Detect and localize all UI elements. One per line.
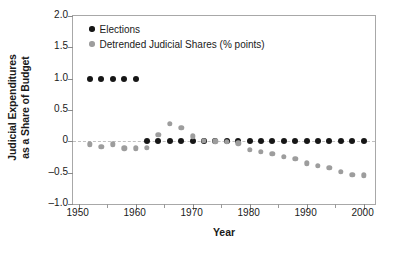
y-axis-tick [68, 204, 73, 205]
data-point-detrended-shares [361, 172, 366, 177]
data-point-detrended-shares [133, 146, 138, 151]
legend-label-elections: Elections [100, 24, 141, 35]
y-axis-title-line-2: as a Share of Budget [18, 56, 30, 158]
data-point-elections [167, 138, 173, 144]
data-point-detrended-shares [224, 139, 229, 144]
data-point-elections [190, 138, 196, 144]
y-axis-tick-label: –0.5 [34, 167, 68, 177]
y-axis-tick [68, 173, 73, 174]
data-point-detrended-shares [327, 165, 332, 170]
data-point-elections [281, 138, 287, 144]
legend-label-detrended-shares: Detrended Judicial Shares (% points) [100, 39, 265, 50]
data-point-detrended-shares [236, 141, 241, 146]
data-point-detrended-shares [315, 163, 320, 168]
data-point-elections [178, 138, 184, 144]
legend-item-detrended-shares: Detrended Judicial Shares (% points) [89, 37, 265, 51]
x-axis-tick-labels: 195019601970198019902000 [72, 208, 376, 222]
data-point-detrended-shares [338, 169, 343, 174]
chart-legend: Elections Detrended Judicial Shares (% p… [89, 22, 265, 52]
y-axis-title: Judicial Expenditures as a Share of Budg… [0, 0, 36, 215]
data-point-detrended-shares [179, 125, 184, 130]
y-axis-tick-label: 2.0 [34, 10, 68, 20]
data-point-detrended-shares [304, 161, 309, 166]
data-point-detrended-shares [87, 142, 92, 147]
y-axis-tick [68, 16, 73, 17]
y-axis-title-line-1: Judicial Expenditures [6, 54, 18, 160]
data-point-elections [258, 138, 264, 144]
data-point-detrended-shares [122, 146, 127, 151]
data-point-elections [98, 76, 104, 82]
data-point-elections [121, 76, 127, 82]
data-point-elections [304, 138, 310, 144]
x-axis-tick-label: 1990 [294, 208, 316, 218]
y-axis-tick [68, 141, 73, 142]
x-axis-tick-label: 1960 [124, 208, 146, 218]
x-axis-title: Year [72, 226, 376, 238]
data-point-elections [269, 138, 275, 144]
y-axis-tick-labels: 2.01.51.00.50–0.5–1.0 [32, 0, 68, 260]
x-axis-tick-label: 1980 [238, 208, 260, 218]
data-point-detrended-shares [258, 149, 263, 154]
data-point-detrended-shares [99, 144, 104, 149]
y-axis-tick-label: 1.0 [34, 73, 68, 83]
data-point-detrended-shares [281, 154, 286, 159]
data-point-detrended-shares [144, 145, 149, 150]
x-axis-tick-label: 1950 [67, 208, 89, 218]
x-axis-minor-tick [335, 204, 336, 208]
data-point-elections [338, 138, 344, 144]
y-axis-tick-label: 0.5 [34, 104, 68, 114]
data-point-elections [361, 138, 367, 144]
data-point-detrended-shares [156, 132, 161, 137]
data-point-detrended-shares [270, 151, 275, 156]
data-point-elections [110, 76, 116, 82]
data-point-detrended-shares [167, 121, 172, 126]
data-point-elections [144, 138, 150, 144]
plot-area: Elections Detrended Judicial Shares (% p… [72, 15, 376, 205]
data-point-elections [326, 138, 332, 144]
legend-item-elections: Elections [89, 22, 265, 36]
y-axis-tick-label: –1.0 [34, 198, 68, 208]
data-point-detrended-shares [293, 156, 298, 161]
y-axis-tick [68, 110, 73, 111]
x-axis-minor-tick [278, 204, 279, 208]
legend-marker-elections-icon [89, 26, 95, 32]
legend-marker-detrended-shares-icon [89, 41, 95, 47]
x-axis-tick-label: 2000 [351, 208, 373, 218]
data-point-elections [133, 76, 139, 82]
data-point-elections [247, 138, 253, 144]
y-axis-tick-label: 0 [34, 135, 68, 145]
y-axis-tick [68, 47, 73, 48]
data-point-detrended-shares [247, 147, 252, 152]
data-point-elections [315, 138, 321, 144]
data-point-elections [155, 138, 161, 144]
data-point-detrended-shares [110, 142, 115, 147]
x-axis-tick-label: 1970 [181, 208, 203, 218]
chart-figure: Judicial Expenditures as a Share of Budg… [0, 0, 398, 260]
x-axis-minor-tick [107, 204, 108, 208]
x-axis-minor-tick [164, 204, 165, 208]
data-point-elections [349, 138, 355, 144]
data-point-detrended-shares [350, 172, 355, 177]
y-axis-tick-label: 1.5 [34, 41, 68, 51]
data-point-elections [87, 76, 93, 82]
data-point-elections [292, 138, 298, 144]
x-axis-minor-tick [221, 204, 222, 208]
y-axis-tick [68, 79, 73, 80]
